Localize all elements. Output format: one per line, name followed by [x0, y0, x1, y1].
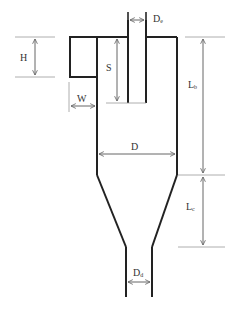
- inlet-box: [70, 37, 97, 77]
- label-Lb: Lb: [188, 80, 197, 90]
- cone-left-wall: [97, 175, 126, 247]
- cyclone-diagram: [0, 0, 233, 309]
- label-Lc: Lc: [186, 202, 195, 212]
- cone-right-wall: [152, 175, 177, 247]
- label-De: De: [153, 14, 163, 24]
- label-H: H: [20, 53, 27, 63]
- label-D: D: [131, 142, 138, 152]
- label-S: S: [106, 63, 112, 73]
- label-W: W: [77, 94, 86, 104]
- label-Dd: Dd: [133, 268, 143, 278]
